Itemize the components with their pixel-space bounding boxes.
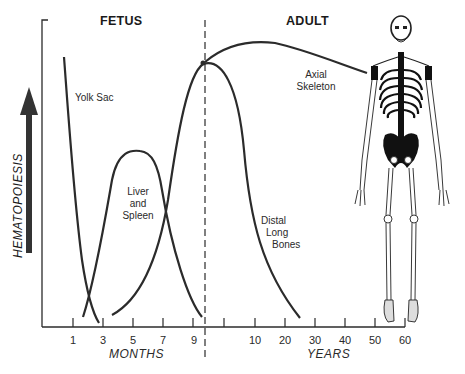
liver-spleen-label-line: Spleen (119, 210, 157, 222)
tick-label-year: 40 (339, 334, 351, 346)
adult-header: ADULT (286, 14, 329, 28)
tick-label-year: 30 (309, 334, 321, 346)
distal-long-bones-label: Distal Long Bones (261, 215, 300, 251)
liver-spleen-label: Liver and Spleen (119, 186, 157, 222)
axial-skeleton-label: Axial Skeleton (292, 69, 340, 93)
liver-spleen-label-line: Liver (119, 186, 157, 198)
tick-label-month: 3 (100, 334, 106, 346)
liver-spleen-label-line: and (119, 198, 157, 210)
distal-label-line: Bones (261, 239, 300, 251)
tick-label-month: 1 (70, 334, 76, 346)
years-axis-label: YEARS (307, 347, 350, 361)
tick-label-year: 10 (249, 334, 261, 346)
yolk-sac-label: Yolk Sac (75, 92, 114, 104)
axial-skeleton-curve (205, 42, 367, 73)
axial-label-line: Skeleton (292, 81, 340, 93)
tick-label-month: 9 (191, 334, 197, 346)
liver-spleen-curve (83, 151, 202, 317)
hematopoiesis-diagram (0, 0, 465, 374)
tick-label-month: 5 (130, 334, 136, 346)
months-axis-label: MONTHS (109, 347, 164, 361)
axial-label-line: Axial (292, 69, 340, 81)
tick-label-month: 7 (160, 334, 166, 346)
fetus-header: FETUS (100, 14, 142, 28)
tick-label-year: 20 (279, 334, 291, 346)
tick-label-year: 60 (399, 334, 411, 346)
curve-junction-dot (201, 61, 206, 66)
skeleton-icon (355, 16, 449, 322)
x-axis-ticks (73, 318, 405, 327)
y-axis-label: HEMATOPOIESIS (11, 153, 25, 258)
y-axis-line (42, 20, 48, 327)
distal-label-line: Distal (261, 215, 300, 227)
tick-label-year: 50 (369, 334, 381, 346)
distal-label-line: Long (261, 227, 300, 239)
